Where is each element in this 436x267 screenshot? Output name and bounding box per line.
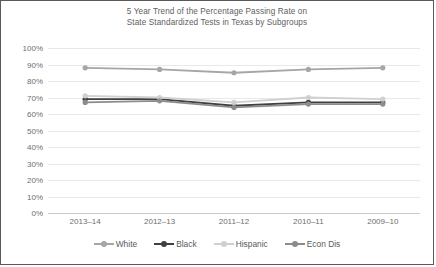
chart-legend: WhiteBlackHispanicEcon Dis: [1, 239, 433, 249]
legend-item-black[interactable]: Black: [154, 239, 196, 249]
data-point: [306, 95, 311, 100]
legend-marker-icon: [154, 240, 174, 249]
legend-marker-icon: [214, 240, 234, 249]
chart-title-line-2: State Standardized Tests in Texas by Sub…: [1, 17, 433, 28]
y-axis-label: 10%: [27, 192, 43, 201]
legend-label: White: [116, 239, 137, 249]
data-point: [306, 102, 311, 107]
y-axis-label: 100%: [23, 44, 43, 53]
legend-label: Hispanic: [236, 239, 268, 249]
legend-item-econ-dis[interactable]: Econ Dis: [285, 239, 341, 249]
x-axis-label: 2011–12: [219, 217, 250, 226]
chart-title: 5 Year Trend of the Percentage Passing R…: [1, 6, 433, 28]
data-point: [380, 102, 385, 107]
legend-marker-icon: [285, 240, 305, 249]
x-axis-label: 2010–11: [293, 217, 324, 226]
data-point: [83, 93, 88, 98]
x-axis-label: 2009–10: [367, 217, 398, 226]
legend-label: Econ Dis: [307, 239, 341, 249]
data-point: [157, 98, 162, 103]
data-point: [231, 70, 236, 75]
chart-frame: 5 Year Trend of the Percentage Passing R…: [0, 0, 434, 265]
y-axis-label: 60%: [27, 110, 43, 119]
x-axis-label: 2012–13: [144, 217, 175, 226]
chart-title-line-1: 5 Year Trend of the Percentage Passing R…: [1, 6, 433, 17]
data-point: [380, 97, 385, 102]
legend-item-white[interactable]: White: [94, 239, 137, 249]
y-axis-label: 40%: [27, 143, 43, 152]
y-axis-label: 0%: [31, 209, 43, 218]
series-lines: [48, 48, 420, 213]
x-axis-label: 2013–14: [70, 217, 101, 226]
y-axis-label: 20%: [27, 176, 43, 185]
legend-label: Black: [176, 239, 196, 249]
y-axis-label: 90%: [27, 60, 43, 69]
y-axis-label: 80%: [27, 77, 43, 86]
y-axis-label: 30%: [27, 159, 43, 168]
data-point: [231, 105, 236, 110]
plot-area: 100%90%80%70%60%50%40%30%20%10%0%: [48, 48, 420, 213]
data-point: [157, 67, 162, 72]
data-point: [231, 100, 236, 105]
y-axis-label: 70%: [27, 93, 43, 102]
data-point: [83, 65, 88, 70]
legend-marker-icon: [94, 240, 114, 249]
y-axis-label: 50%: [27, 126, 43, 135]
data-point: [83, 100, 88, 105]
legend-item-hispanic[interactable]: Hispanic: [214, 239, 268, 249]
x-axis-line: [48, 213, 420, 214]
data-point: [380, 65, 385, 70]
data-point: [306, 67, 311, 72]
